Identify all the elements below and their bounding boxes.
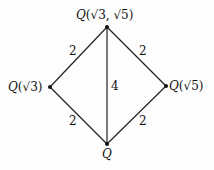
- node-dot-top: [105, 25, 109, 29]
- node-dot-right: [164, 84, 168, 88]
- field-symbol: Q: [76, 8, 86, 22]
- field-symbol: Q: [169, 79, 179, 93]
- edge-degree-left-top: 2: [69, 44, 77, 58]
- edge-left-top: [50, 27, 107, 87]
- edge-bottom-left: [50, 87, 107, 144]
- field-args: (√3): [18, 80, 43, 94]
- field-symbol: Q: [8, 80, 18, 94]
- node-label-bottom: Q: [102, 147, 112, 161]
- node-label-top: Q(√3, √5): [76, 8, 133, 22]
- edge-right-top: [107, 27, 166, 86]
- field-symbol: Q: [102, 147, 112, 161]
- edge-degree-bottom-left: 2: [69, 114, 77, 128]
- edge-degree-bottom-top: 4: [111, 79, 119, 93]
- field-args: (√3, √5): [86, 8, 134, 22]
- node-dot-left: [48, 85, 52, 89]
- edge-degree-right-top: 2: [139, 44, 147, 58]
- node-label-left: Q(√3): [8, 80, 43, 94]
- node-label-right: Q(√5): [169, 79, 204, 93]
- edge-degree-bottom-right: 2: [139, 114, 147, 128]
- edge-bottom-right: [107, 86, 166, 144]
- field-lattice-diagram: Q(√3, √5) Q(√3) Q(√5) Q 2 2 2 2 4: [0, 0, 214, 170]
- field-args: (√5): [179, 79, 204, 93]
- node-dot-bottom: [105, 142, 109, 146]
